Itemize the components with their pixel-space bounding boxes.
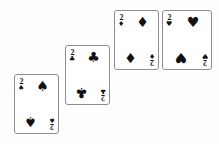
card-suit-icon-large: ♠	[24, 115, 37, 129]
card-suit-icon-large: ♣	[87, 50, 100, 64]
playing-card-clubs[interactable]: 2♣2♣♣♣	[65, 45, 110, 105]
card-pip-bottom: ♠	[15, 115, 58, 129]
playing-card-diamonds[interactable]: 2♦2♦♦♦	[114, 10, 159, 70]
card-suit-icon-large: ♥	[175, 51, 188, 65]
card-suit-icon-large: ♦	[124, 51, 137, 65]
card-suit-icon-large: ♥	[187, 15, 200, 29]
card-pip-bottom: ♥	[163, 51, 211, 65]
card-pip-top: ♣	[66, 50, 109, 64]
card-suit-icon-large: ♠	[36, 79, 49, 93]
card-pip-top: ♠	[15, 79, 58, 93]
card-table: 2♠2♠♠♠2♣2♣♣♣2♦2♦♦♦2♥2♥♥♥	[0, 0, 219, 144]
card-suit-icon-large: ♣	[75, 86, 88, 100]
card-suit-icon-large: ♦	[136, 15, 149, 29]
card-pip-top: ♥	[163, 15, 211, 29]
playing-card-spades[interactable]: 2♠2♠♠♠	[14, 74, 59, 134]
playing-card-hearts[interactable]: 2♥2♥♥♥	[162, 10, 212, 70]
card-pip-bottom: ♦	[115, 51, 158, 65]
card-pip-bottom: ♣	[66, 86, 109, 100]
card-pip-top: ♦	[115, 15, 158, 29]
